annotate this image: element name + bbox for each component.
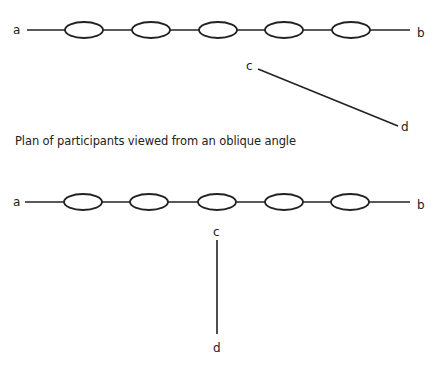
top-participant-4 xyxy=(265,22,303,38)
top-participant-1 xyxy=(65,22,103,38)
top-participant-5 xyxy=(332,22,370,38)
bottom-label-d: d xyxy=(213,341,221,355)
top-cd-line xyxy=(258,69,398,126)
bottom-label-c: c xyxy=(213,225,220,239)
top-label-a: a xyxy=(13,23,20,37)
bottom-participant-5 xyxy=(331,194,369,210)
bottom-participant-1 xyxy=(64,194,102,210)
bottom-label-a: a xyxy=(13,195,20,209)
top-label-d: d xyxy=(401,120,409,134)
bottom-participant-2 xyxy=(130,194,168,210)
diagram-caption: Plan of participants viewed from an obli… xyxy=(15,134,296,148)
bottom-participant-4 xyxy=(265,194,303,210)
top-label-b: b xyxy=(417,26,425,40)
top-participant-3 xyxy=(199,22,237,38)
top-participant-2 xyxy=(132,22,170,38)
diagram-canvas: a b c d a b c d xyxy=(0,0,440,366)
bottom-label-b: b xyxy=(417,198,425,212)
bottom-participant-3 xyxy=(198,194,236,210)
top-label-c: c xyxy=(246,59,253,73)
